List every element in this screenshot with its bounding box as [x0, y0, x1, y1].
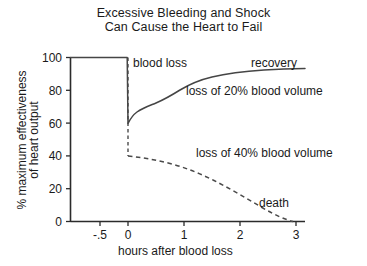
- series-line-loss40: [128, 156, 293, 222]
- x-tick-label-1: 1: [169, 228, 199, 242]
- annotation-death: death: [259, 196, 289, 210]
- x-axis-title: hours after blood loss: [118, 244, 233, 258]
- x-tick-label-3: 3: [281, 228, 311, 242]
- x-tick-label-2: 2: [225, 228, 255, 242]
- figure-root: Excessive Bleeding and Shock Can Cause t…: [0, 0, 367, 266]
- y-axis-title-line-2: of heart output: [27, 60, 41, 220]
- annotation-recovery: recovery: [251, 56, 297, 70]
- annotation-loss-40: loss of 40% blood volume: [196, 146, 333, 160]
- x-tick-label-neg-0-5: -.5: [85, 228, 115, 242]
- annotation-blood-loss: blood loss: [133, 56, 187, 70]
- annotation-loss-20: loss of 20% blood volume: [186, 84, 323, 98]
- x-tick-label-0: 0: [113, 228, 143, 242]
